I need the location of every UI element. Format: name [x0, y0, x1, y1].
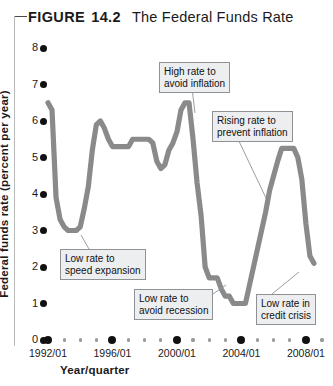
- annotation-line: High rate to: [164, 66, 225, 78]
- x-axis-minor-dot: [79, 338, 82, 341]
- y-axis-tick-label: 2: [22, 260, 38, 272]
- y-axis-tick-dot: [40, 45, 47, 52]
- y-axis-tick-label: 1: [22, 297, 38, 309]
- x-axis-tick-dot: [302, 336, 310, 344]
- y-axis-tick-dot: [40, 81, 47, 88]
- y-axis-title: Federal funds rate (percent per year): [0, 90, 10, 297]
- x-axis-minor-dot: [95, 338, 98, 341]
- x-axis-minor-dot: [143, 338, 146, 341]
- y-axis-tick-dot: [40, 264, 47, 271]
- x-axis-tick-label: 2000/01: [158, 347, 196, 359]
- annotation-line: Rising rate to: [217, 115, 288, 127]
- x-axis-minor-dot: [191, 338, 194, 341]
- x-axis-tick-label: 1996/01: [93, 347, 131, 359]
- x-axis-minor-dot: [272, 338, 275, 341]
- annotation-line: Low rate in: [261, 298, 311, 310]
- annotation-low-rate-credit-crisis: Low rate incredit crisis: [256, 294, 316, 325]
- x-axis-tick-label: 1992/01: [29, 347, 67, 359]
- annotation-rising-rate-prevent-inflation: Rising rate toprevent inflation: [212, 111, 293, 142]
- annotation-low-rate-speed-expansion: Low rate tospeed expansion: [60, 249, 146, 280]
- x-axis-tick-dot: [173, 336, 181, 344]
- annotation-line: Low rate to: [65, 253, 141, 265]
- y-axis-tick-dot: [40, 191, 47, 198]
- y-axis-tick-label: 0: [22, 333, 38, 345]
- y-axis-tick-label: 3: [22, 224, 38, 236]
- x-axis-minor-dot: [224, 338, 227, 341]
- x-axis-minor-dot: [127, 338, 130, 341]
- annotation-low-rate-avoid-recession: Low rate toavoid recession: [134, 289, 213, 320]
- x-axis-tick-label: 2008/01: [287, 347, 325, 359]
- annotation-line: prevent inflation: [217, 127, 288, 139]
- x-axis-tick-label: 2004/01: [222, 347, 260, 359]
- y-axis-tick-label: 8: [22, 41, 38, 53]
- y-axis-tick-dot: [40, 154, 47, 161]
- y-axis-tick-dot: [40, 227, 47, 234]
- y-axis-tick-label: 5: [22, 151, 38, 163]
- annotation-line: avoid recession: [139, 305, 208, 317]
- figure-container: FIGURE14.2The Federal Funds Rate Federal…: [0, 0, 333, 386]
- annotation-high-rate-avoid-inflation: High rate toavoid inflation: [159, 62, 230, 93]
- annotation-line: speed expansion: [65, 265, 141, 277]
- x-axis-tick-dot: [44, 336, 52, 344]
- x-axis-minor-dot: [256, 338, 259, 341]
- x-axis-minor-dot: [320, 338, 323, 341]
- annotation-line: Low rate to: [139, 293, 208, 305]
- y-axis-tick-label: 4: [22, 187, 38, 199]
- y-axis-tick-label: 6: [22, 114, 38, 126]
- x-axis-minor-dot: [288, 338, 291, 341]
- y-axis-tick-dot: [40, 300, 47, 307]
- x-axis-minor-dot: [63, 338, 66, 341]
- annotation-line: credit crisis: [261, 310, 311, 322]
- x-axis-title: Year/quarter: [60, 364, 130, 376]
- y-axis-tick-dot: [40, 118, 47, 125]
- y-axis-tick-label: 7: [22, 78, 38, 90]
- x-axis-minor-dot: [208, 338, 211, 341]
- annotation-line: avoid inflation: [164, 78, 225, 90]
